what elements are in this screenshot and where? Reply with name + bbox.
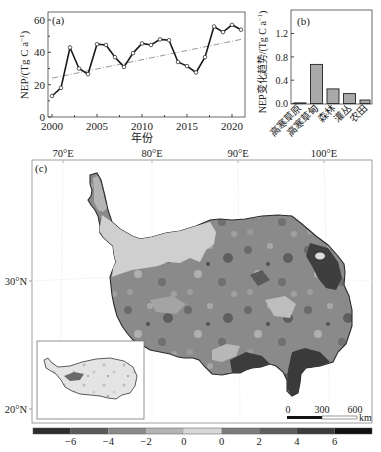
inset-map (37, 341, 144, 419)
x-axis: 2000 2005 2010 2015 2020 年份 (41, 114, 244, 144)
trend-line (52, 39, 241, 78)
x-tick-label: 2015 (176, 120, 199, 132)
panel-label: (c) (35, 162, 48, 175)
lat-label: 30°N (5, 276, 28, 287)
scale-label: 300 (315, 404, 330, 415)
y-tick-label: 0.0 (276, 98, 289, 109)
bars (294, 64, 370, 103)
x-tick-label: 2000 (41, 120, 64, 132)
x-tick-label: 2020 (221, 120, 244, 132)
panel-c-map: 70°E 80°E 90°E 100°E 30°N 20°N (c) (5, 148, 372, 423)
colorbar-tick: 0 (219, 436, 224, 447)
lon-label: 80°E (141, 148, 162, 159)
nep-series-markers (50, 23, 243, 98)
colorbar-tick: −2 (141, 436, 152, 447)
panel-a-line-chart: 0 20 40 60 NEP/(Tg C a−1) 2000 2005 2010… (18, 12, 245, 144)
scale-unit: km (359, 412, 372, 423)
lon-label: 90°E (227, 148, 248, 159)
nep-series-line (52, 25, 241, 96)
colorbar-tick: 6 (332, 436, 337, 447)
category-label: 农田 (347, 102, 370, 125)
panel-label: (b) (297, 15, 310, 28)
latitude-labels: 30°N 20°N (5, 276, 28, 415)
y-tick-label: 0.4 (276, 75, 289, 86)
y-tick-label: 40 (34, 46, 46, 58)
x-tick-label: 2005 (86, 120, 109, 132)
longitude-labels: 70°E 80°E 90°E 100°E (52, 148, 337, 159)
y-axis-title: NEP变化趋势/(Tg C a−1) (256, 11, 269, 113)
lon-label: 100°E (311, 148, 337, 159)
colorbar-tick: 0 (181, 436, 186, 447)
y-tick-label: 0.8 (276, 52, 289, 63)
y-tick-label: 20 (34, 79, 46, 91)
y-tick-label: 60 (34, 14, 46, 26)
y-axis: 0.0 0.4 0.8 1.2 NEP变化趋势/(Tg C a−1) (256, 11, 294, 113)
scale-label: 0 (286, 404, 291, 415)
x-axis-title: 年份 (131, 131, 153, 144)
colorbar-tick: −4 (103, 436, 115, 447)
colorbar-tick: 4 (294, 436, 300, 447)
panel-b-bar-chart: 0.0 0.4 0.8 1.2 NEP变化趋势/(Tg C a−1) (b) 高… (256, 10, 372, 139)
y-tick-label: 1.2 (276, 28, 289, 39)
bar-shrub (344, 94, 356, 104)
y-axis-title: NEP/(Tg C a−1) (18, 30, 31, 99)
figure: 0 20 40 60 NEP/(Tg C a−1) 2000 2005 2010… (0, 0, 381, 452)
y-axis: 0 20 40 60 NEP/(Tg C a−1) (18, 14, 51, 123)
lat-label: 20°N (5, 404, 28, 415)
bar-forest (327, 89, 339, 104)
colorbar-tick: 2 (257, 436, 262, 447)
colorbar: −6 −4 −2 0 0 2 4 6 (33, 428, 372, 447)
x-tick-label: 2010 (131, 120, 154, 132)
colorbar-tick: −6 (65, 436, 76, 447)
bar-alpine-meadow (311, 64, 323, 103)
lon-label: 70°E (52, 148, 73, 159)
panel-label: (a) (52, 14, 65, 27)
